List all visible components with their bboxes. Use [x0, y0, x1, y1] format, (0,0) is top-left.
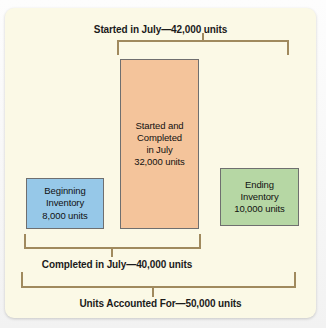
diagram-stage: Started in July—42,000 units Beginning I…	[0, 0, 326, 328]
box-started-and-completed-line-1: Started and	[135, 120, 183, 132]
box-beginning-inventory[interactable]: Beginning Inventory 8,000 units	[26, 178, 104, 229]
label-completed-in-july: Completed in July—40,000 units	[17, 259, 217, 270]
box-ending-inventory-line-2: Inventory	[240, 191, 278, 203]
box-started-and-completed-line-2: Completed	[137, 132, 182, 144]
box-ending-inventory-line-3: 10,000 units	[234, 203, 285, 215]
box-beginning-inventory-line-3: 8,000 units	[42, 210, 87, 222]
box-started-and-completed-line-3: in July	[146, 144, 172, 156]
bracket-started-in-july-icon	[118, 41, 288, 54]
box-ending-inventory-line-1: Ending	[245, 179, 274, 191]
box-started-and-completed-line-4: 32,000 units	[134, 156, 185, 168]
bracket-completed-in-july-icon	[25, 235, 200, 248]
diagram-card: Started in July—42,000 units Beginning I…	[5, 8, 316, 318]
box-beginning-inventory-line-2: Inventory	[46, 197, 84, 209]
box-ending-inventory[interactable]: Ending Inventory 10,000 units	[220, 168, 299, 226]
bracket-units-accounted-for-icon	[22, 273, 295, 287]
label-started-in-july: Started in July—42,000 units	[5, 24, 316, 35]
box-started-and-completed[interactable]: Started and Completed in July 32,000 uni…	[120, 59, 199, 229]
box-beginning-inventory-line-1: Beginning	[44, 185, 85, 197]
label-units-accounted-for: Units Accounted For—50,000 units	[5, 298, 316, 309]
